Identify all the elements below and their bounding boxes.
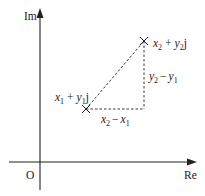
point-z1-label: x1+y1j [54, 91, 89, 106]
point-z2-label: x2+y2j [152, 37, 187, 52]
point-z1-cross-icon [82, 105, 90, 113]
imaginary-axis-arrow-icon [37, 8, 44, 18]
complex-plane-diagram: Im Re O x2+y2j x1+y1j x2−x1 y2−y1 [0, 0, 205, 196]
point-z2-cross-icon [140, 37, 148, 45]
vertical-difference-label: y2−y1 [148, 70, 178, 85]
origin-label: O [26, 169, 34, 181]
real-axis-arrow-icon [187, 159, 197, 166]
imaginary-axis-label: Im [24, 10, 37, 22]
dashed-hypotenuse [86, 41, 144, 109]
real-axis-label: Re [184, 169, 197, 181]
horizontal-difference-label: x2−x1 [100, 113, 130, 128]
